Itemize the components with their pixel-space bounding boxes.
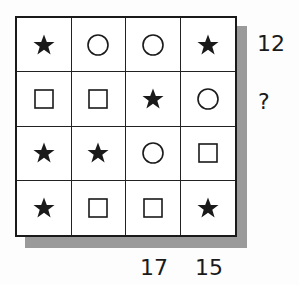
- grid-cell: [126, 127, 181, 181]
- star-icon: [86, 141, 110, 165]
- grid-cell: [72, 127, 127, 181]
- grid-cell: [72, 72, 127, 126]
- grid-cell: [17, 18, 72, 72]
- star-icon: [196, 196, 220, 220]
- star-icon: [141, 87, 165, 111]
- circle-icon: [86, 33, 110, 57]
- square-icon: [86, 87, 110, 111]
- row-1-total: 12: [257, 33, 285, 55]
- grid-cell: [17, 72, 72, 126]
- square-icon: [32, 87, 56, 111]
- grid-cell: [126, 18, 181, 72]
- column-4-total: 15: [195, 257, 223, 279]
- circle-icon: [141, 141, 165, 165]
- star-icon: [32, 141, 56, 165]
- star-icon: [32, 196, 56, 220]
- circle-icon: [141, 33, 165, 57]
- grid-cell: [181, 181, 236, 235]
- grid-cell: [181, 72, 236, 126]
- grid-cell: [181, 18, 236, 72]
- square-icon: [86, 196, 110, 220]
- circle-icon: [196, 87, 220, 111]
- row-2-total: ?: [258, 91, 270, 113]
- grid-cell: [17, 181, 72, 235]
- column-3-total: 17: [140, 257, 168, 279]
- grid-cell: [181, 127, 236, 181]
- grid-cell: [126, 181, 181, 235]
- star-icon: [196, 33, 220, 57]
- star-icon: [32, 33, 56, 57]
- puzzle-grid: [15, 16, 237, 237]
- grid-cell: [17, 127, 72, 181]
- grid-cell: [126, 72, 181, 126]
- square-icon: [141, 196, 165, 220]
- grid-cell: [72, 181, 127, 235]
- square-icon: [196, 141, 220, 165]
- grid-cell: [72, 18, 127, 72]
